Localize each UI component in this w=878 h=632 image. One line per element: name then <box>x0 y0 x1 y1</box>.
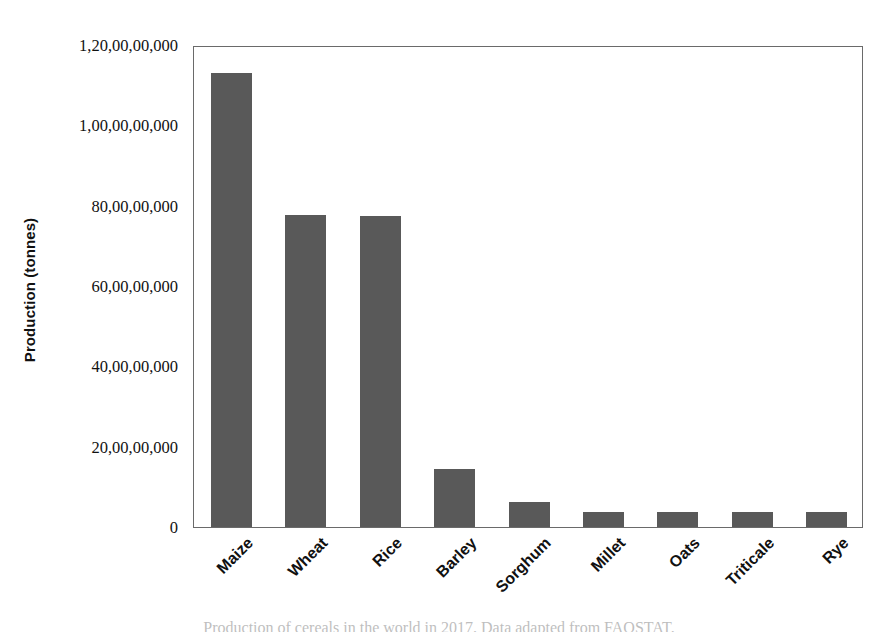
y-axis-tick-label: 1,00,00,00,000 <box>79 116 178 136</box>
y-axis-tick-label: 0 <box>170 518 178 538</box>
bar <box>657 512 698 527</box>
bar <box>806 512 847 527</box>
y-axis-tick-label: 40,00,00,000 <box>91 357 178 377</box>
bar <box>509 502 550 527</box>
plot-frame <box>193 46 863 528</box>
bar <box>583 512 624 527</box>
y-axis-tick-labels: 020,00,00,00040,00,00,00060,00,00,00080,… <box>44 0 186 632</box>
y-axis-tick-label: 20,00,00,000 <box>91 438 178 458</box>
figure-caption-text: Production of cereals in the world in 20… <box>0 620 878 632</box>
plot-area <box>194 47 862 527</box>
y-axis-tick-label: 1,20,00,00,000 <box>79 36 178 56</box>
chart-figure: Production (tonnes) 020,00,00,00040,00,0… <box>0 0 878 632</box>
figure-caption: Production of cereals in the world in 20… <box>0 620 878 632</box>
x-axis-tick-labels: MaizeWheatRiceBarleySorghumMilletOatsTri… <box>193 534 863 624</box>
y-axis-tick-label: 80,00,00,000 <box>91 197 178 217</box>
bar <box>285 215 326 527</box>
bar <box>211 73 252 527</box>
y-axis-title: Production (tonnes) <box>14 160 44 420</box>
x-axis-tick-label: Maize <box>208 534 257 583</box>
bar <box>732 512 773 527</box>
bar <box>360 216 401 527</box>
y-axis-tick-label: 60,00,00,000 <box>91 277 178 297</box>
bar <box>434 469 475 527</box>
